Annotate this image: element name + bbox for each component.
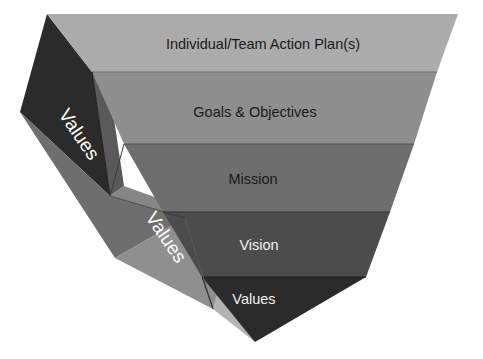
inverted-pyramid-diagram: Individual/Team Action Plan(s) Goals & O…	[0, 0, 483, 359]
pyramid-canvas: Individual/Team Action Plan(s) Goals & O…	[0, 0, 483, 359]
layer-label-mission: Mission	[228, 171, 277, 187]
layer-label-values-core: Values	[232, 291, 275, 307]
layer-label-action-plans: Individual/Team Action Plan(s)	[166, 36, 360, 52]
layer-label-goals-objectives: Goals & Objectives	[193, 104, 316, 120]
layer-label-vision: Vision	[239, 237, 278, 253]
